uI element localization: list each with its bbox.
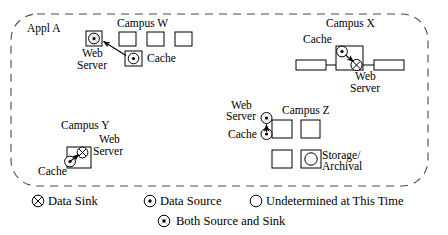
campus-z-group	[261, 113, 321, 169]
legend-label-data-source: Data Source	[160, 194, 221, 209]
campus-x-plain-box-right	[374, 60, 404, 70]
campus-z-plain-box-3	[272, 150, 292, 168]
campus-z-plain-box-2	[301, 120, 320, 138]
campus-w-plain-box-3	[175, 32, 192, 46]
campus-w-web-server-label-line1: Web	[82, 47, 103, 59]
campus-x-web-server-label-line2: Server	[350, 82, 380, 94]
legend-label-both-source-and-sink: Both Source and Sink	[176, 214, 285, 229]
campus-w-cache-symbol-source	[128, 53, 139, 64]
campus-x-web-server-label-line1: Web	[355, 70, 376, 82]
legend-icon-both-source-and-sink	[158, 215, 170, 227]
campus-z-storage-label-line2: Archival	[322, 160, 362, 172]
legend-label-data-sink: Data Sink	[48, 194, 98, 209]
legend-icon-data-sink	[32, 195, 44, 207]
campus-y-group	[65, 147, 91, 168]
legend-icon-data-source	[144, 195, 156, 207]
campus-y-label: Campus Y	[61, 119, 109, 131]
campus-z-storage-symbol-undetermined	[305, 153, 317, 165]
campus-y-cache-label: Cache	[38, 165, 67, 177]
campus-w-plain-box-2	[147, 32, 164, 46]
campus-x-label: Campus X	[326, 17, 375, 29]
campus-y-web-server-label-line2: Server	[93, 145, 123, 157]
campus-x-cache-label: Cache	[303, 33, 332, 45]
campus-w-cache-label: Cache	[147, 52, 176, 64]
campus-z-label: Campus Z	[282, 104, 330, 116]
campus-y-web-server-label-line1: Web	[99, 133, 120, 145]
campus-w-web-server-label-line2: Server	[77, 59, 107, 71]
campus-z-web-server-label-line2: Server	[226, 110, 256, 122]
campus-y-web-server-symbol-sink	[77, 147, 88, 158]
campus-w-plain-box-1	[119, 32, 136, 46]
campus-x-plain-box-left	[296, 60, 326, 70]
campus-w-web-server-symbol-both	[89, 33, 100, 44]
campus-z-plain-box-1	[272, 120, 292, 138]
legend-label-undetermined: Undetermined at This Time	[266, 194, 404, 209]
appl-a-label: Appl A	[27, 22, 61, 34]
legend-icon-undetermined	[250, 195, 262, 207]
diagram-page: Appl A Campus W Web Server Cache Campus …	[0, 0, 448, 235]
campus-x-group	[296, 46, 404, 71]
campus-w-label: Campus W	[117, 17, 168, 29]
campus-z-web-server-symbol-both	[261, 113, 272, 124]
campus-z-cache-label: Cache	[228, 128, 257, 140]
